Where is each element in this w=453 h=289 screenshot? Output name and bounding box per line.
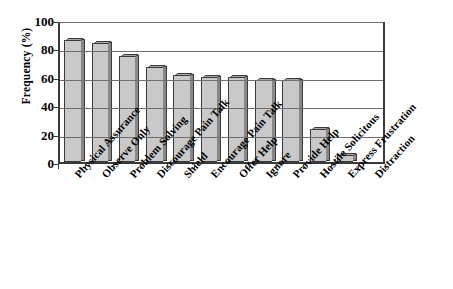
gridline <box>60 51 383 52</box>
y-tick-mark <box>52 79 58 80</box>
x-tick-mark <box>58 164 59 169</box>
y-tick-label: 40 <box>24 100 54 113</box>
x-tick-mark <box>303 164 304 169</box>
bar-top-face <box>120 54 139 57</box>
x-tick-mark <box>331 164 332 169</box>
bar-slot <box>201 20 217 162</box>
x-tick-mark <box>85 164 86 169</box>
y-tick-mark <box>52 136 58 137</box>
bar-chart-figure: Frequency (%) 020406080100 Physical Assu… <box>0 0 453 289</box>
bar-slot <box>282 20 298 162</box>
bar-side-face <box>81 39 85 161</box>
x-tick-mark <box>194 164 195 169</box>
x-tick-mark <box>113 164 114 169</box>
x-tick-mark <box>385 164 386 169</box>
bar-side-face <box>299 79 303 161</box>
y-tick-mark <box>52 50 58 51</box>
y-tick-label: 60 <box>24 72 54 85</box>
y-tick-mark <box>52 107 58 108</box>
y-tick-label: 0 <box>24 157 54 170</box>
x-tick-mark <box>249 164 250 169</box>
y-tick-label: 80 <box>24 43 54 56</box>
x-tick-mark <box>167 164 168 169</box>
bar-slot <box>64 20 80 162</box>
x-tick-mark <box>222 164 223 169</box>
y-tick-label: 20 <box>24 129 54 142</box>
x-tick-mark <box>276 164 277 169</box>
bar-top-face <box>202 75 221 78</box>
y-tick-label: 100 <box>24 15 54 28</box>
x-tick-mark <box>358 164 359 169</box>
y-tick-mark <box>52 22 58 23</box>
bar <box>64 40 80 162</box>
bar-top-face <box>93 41 112 44</box>
x-tick-mark <box>140 164 141 169</box>
gridline <box>60 80 383 81</box>
y-axis-tick-labels: 020406080100 <box>20 0 54 289</box>
